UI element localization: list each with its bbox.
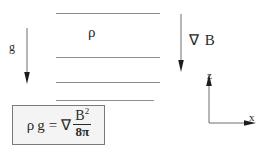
layer-line-3	[56, 82, 160, 83]
density-label: ρ	[88, 25, 96, 40]
equation-rho: ρ	[26, 117, 36, 134]
force-balance-equation: ρ g = ∇ B2 8π	[13, 106, 104, 144]
equation-equals: =	[46, 117, 60, 134]
physics-figure: ρ g ∇ B ρ g = ∇ B2 8π z x	[0, 0, 271, 153]
equation-denominator: 8π	[73, 125, 91, 139]
gravity-arrow-icon	[22, 28, 32, 84]
equation-g: g	[35, 117, 46, 134]
equation-nabla: ∇	[60, 116, 73, 134]
equation-fraction: B2 8π	[73, 109, 91, 139]
equation-numerator: B2	[73, 109, 91, 124]
layer-line-4	[56, 100, 154, 101]
axis-label-x: x	[249, 112, 255, 123]
equation-box: ρ g = ∇ B2 8π	[12, 105, 105, 145]
axis-label-z: z	[207, 70, 212, 81]
equation-numerator-base: B	[75, 108, 84, 123]
gravity-label: g	[9, 41, 15, 53]
layer-line-1	[56, 13, 160, 14]
field-gradient-label: ∇ B	[189, 33, 216, 48]
field-gradient-arrow-icon	[176, 14, 186, 72]
equation-numerator-exponent: 2	[85, 106, 90, 116]
layer-line-2	[56, 57, 160, 58]
